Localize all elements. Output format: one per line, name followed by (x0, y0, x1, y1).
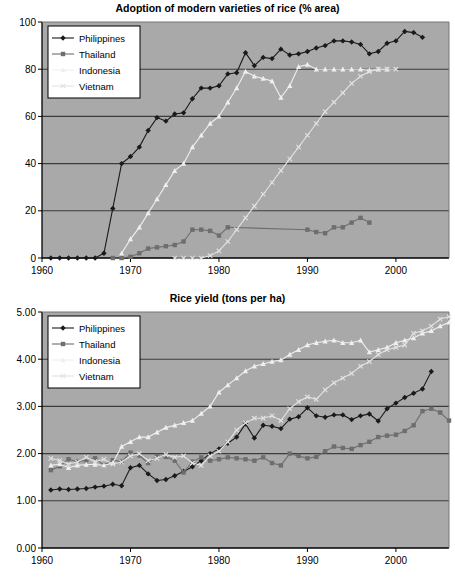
data-point (358, 443, 362, 447)
data-point (376, 435, 380, 439)
ytick-label: 5.00 (17, 307, 37, 318)
legend-label-philippines[interactable]: Philippines (79, 33, 125, 44)
data-point (137, 251, 141, 255)
data-point (243, 457, 247, 461)
data-point (358, 216, 362, 220)
xtick-label: 1980 (208, 265, 231, 276)
data-point (332, 444, 336, 448)
adoption-chart-block: Adoption of modern varieties of rice (% … (0, 0, 455, 290)
data-point (252, 458, 256, 462)
data-point (181, 470, 185, 474)
ytick-label: 0.00 (17, 543, 37, 554)
xtick-label: 1990 (296, 555, 319, 566)
data-point (279, 463, 283, 467)
data-point (199, 455, 203, 459)
data-point (349, 447, 353, 451)
data-point (429, 407, 433, 411)
legend: PhilippinesThailandIndonesiaVietnam (48, 26, 140, 98)
data-point (270, 461, 274, 465)
xtick-label: 1970 (119, 555, 142, 566)
data-point (181, 239, 185, 243)
data-point (411, 423, 415, 427)
data-point (111, 256, 115, 260)
ytick-label: 2.00 (17, 448, 37, 459)
legend: PhilippinesThailandIndonesiaVietnam (48, 316, 140, 388)
data-point (367, 220, 371, 224)
data-point (146, 246, 150, 250)
legend-label-indonesia[interactable]: Indonesia (79, 355, 121, 366)
chart2-title: Rice yield (tons per ha) (0, 292, 455, 304)
data-point (447, 418, 451, 422)
yield-chart-block: Rice yield (tons per ha) 0.001.002.003.0… (0, 290, 455, 580)
legend-label-vietnam[interactable]: Vietnam (79, 81, 114, 92)
data-point (394, 433, 398, 437)
ytick-label: 100 (19, 17, 36, 28)
data-point (314, 230, 318, 234)
data-point (164, 244, 168, 248)
legend-label-indonesia[interactable]: Indonesia (79, 65, 121, 76)
data-point (119, 256, 123, 260)
ytick-label: 20 (25, 205, 37, 216)
data-point (323, 449, 327, 453)
data-point (217, 457, 221, 461)
data-point (420, 409, 424, 413)
legend-label-thailand[interactable]: Thailand (79, 339, 115, 350)
data-point (217, 233, 221, 237)
xtick-label: 1990 (296, 265, 319, 276)
data-point (199, 227, 203, 231)
data-point (173, 243, 177, 247)
data-point (66, 457, 70, 461)
xtick-label: 1970 (119, 265, 142, 276)
data-point (305, 227, 309, 231)
data-point (341, 225, 345, 229)
data-point (349, 220, 353, 224)
data-point (226, 455, 230, 459)
legend-label-philippines[interactable]: Philippines (79, 323, 125, 334)
ytick-label: 60 (25, 111, 37, 122)
data-point (367, 440, 371, 444)
data-point (226, 225, 230, 229)
xtick-label: 1960 (31, 555, 54, 566)
data-point (305, 456, 309, 460)
ytick-label: 1.00 (17, 495, 37, 506)
data-point (296, 454, 300, 458)
data-point (261, 455, 265, 459)
legend-label-vietnam[interactable]: Vietnam (79, 371, 114, 382)
data-point (341, 446, 345, 450)
data-point (234, 456, 238, 460)
chart1-title: Adoption of modern varieties of rice (% … (0, 2, 455, 14)
xtick-label: 2000 (385, 265, 408, 276)
data-point (438, 410, 442, 414)
ytick-label: 4.00 (17, 354, 37, 365)
data-point (288, 451, 292, 455)
ytick-label: 0 (30, 253, 36, 264)
data-point (155, 245, 159, 249)
data-point (403, 429, 407, 433)
chart1-plot: 02040608010019601970198019902000Philippi… (0, 0, 455, 290)
data-point (128, 255, 132, 259)
chart2-plot: 0.001.002.003.004.005.001960197019801990… (0, 290, 455, 580)
legend-marker-thailand (61, 342, 65, 346)
data-point (314, 455, 318, 459)
legend-marker-thailand (61, 52, 65, 56)
data-point (332, 225, 336, 229)
data-point (190, 227, 194, 231)
data-point (49, 468, 53, 472)
legend-label-thailand[interactable]: Thailand (79, 49, 115, 60)
ytick-label: 80 (25, 64, 37, 75)
xtick-label: 1960 (31, 265, 54, 276)
xtick-label: 1980 (208, 555, 231, 566)
data-point (385, 433, 389, 437)
ytick-label: 40 (25, 158, 37, 169)
xtick-label: 2000 (385, 555, 408, 566)
data-point (208, 458, 212, 462)
data-point (323, 231, 327, 235)
ytick-label: 3.00 (17, 401, 37, 412)
data-point (208, 229, 212, 233)
